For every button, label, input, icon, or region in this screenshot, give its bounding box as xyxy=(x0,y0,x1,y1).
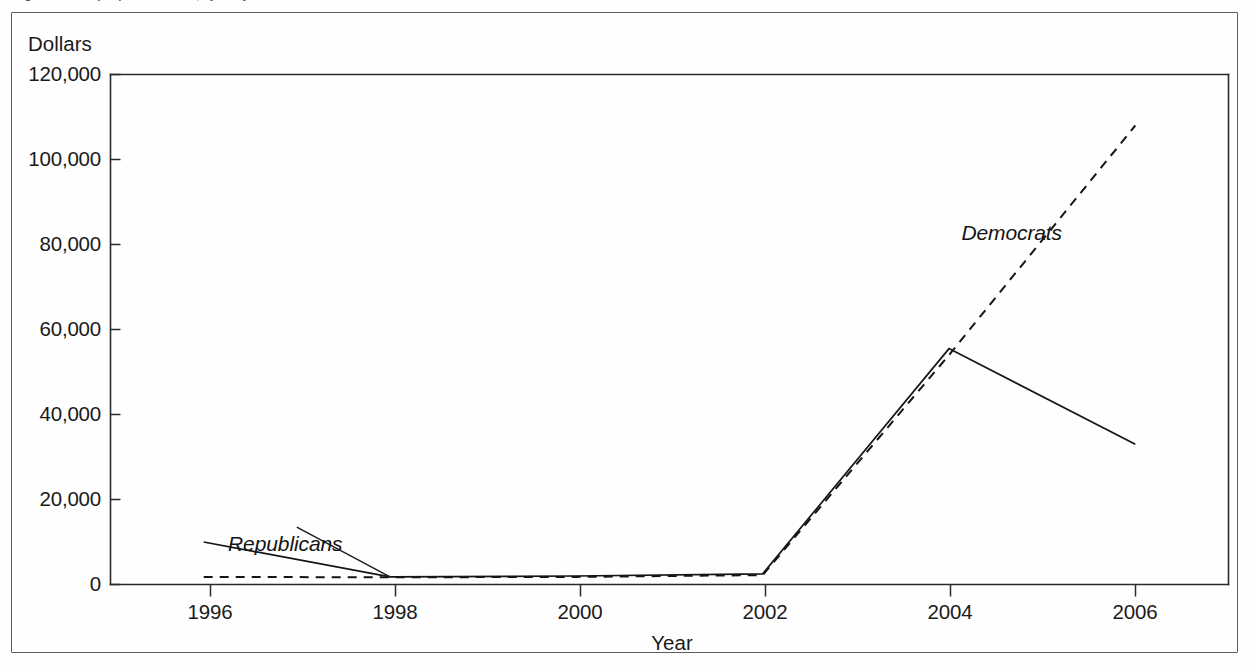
y-tick-label-60000: 60,000 xyxy=(39,317,101,340)
x-tick-label-2006: 2006 xyxy=(1113,600,1158,623)
x-tick-label-2002: 2002 xyxy=(743,600,788,623)
x-axis-title: Year xyxy=(651,631,693,654)
x-tick-label-1998: 1998 xyxy=(373,600,418,623)
y-tick-labels: 0 20,000 40,000 60,000 80,000 100,000 12… xyxy=(28,62,101,595)
y-tick-label-20000: 20,000 xyxy=(39,487,101,510)
series-line-democrats xyxy=(204,126,1136,578)
y-tick-label-40000: 40,000 xyxy=(39,402,101,425)
x-tick-labels: 1996 1998 2000 2002 2004 2006 xyxy=(188,600,1158,623)
y-tick-marks xyxy=(111,75,121,585)
x-tick-label-2004: 2004 xyxy=(928,600,973,623)
y-tick-label-100000: 100,000 xyxy=(28,147,101,170)
x-tick-label-1996: 1996 xyxy=(188,600,233,623)
chart-series xyxy=(204,126,1136,578)
chart-svg: 0 20,000 40,000 60,000 80,000 100,000 12… xyxy=(0,0,1251,669)
line-chart: 0 20,000 40,000 60,000 80,000 100,000 12… xyxy=(0,0,1251,669)
series-line-republicans xyxy=(204,349,1136,577)
series-label-democrats: Democrats xyxy=(961,221,1062,244)
y-tick-label-0: 0 xyxy=(90,572,101,595)
x-tick-marks xyxy=(211,585,1136,597)
x-tick-label-2000: 2000 xyxy=(558,600,603,623)
y-axis-title: Dollars xyxy=(28,32,92,55)
chart-axes xyxy=(111,75,1229,585)
y-tick-label-80000: 80,000 xyxy=(39,232,101,255)
y-tick-label-120000: 120,000 xyxy=(28,62,101,85)
series-label-republicans: Republicans xyxy=(228,532,343,555)
scanned-page: Figure 2. Receipts per Candidate, by Par… xyxy=(0,0,1251,669)
